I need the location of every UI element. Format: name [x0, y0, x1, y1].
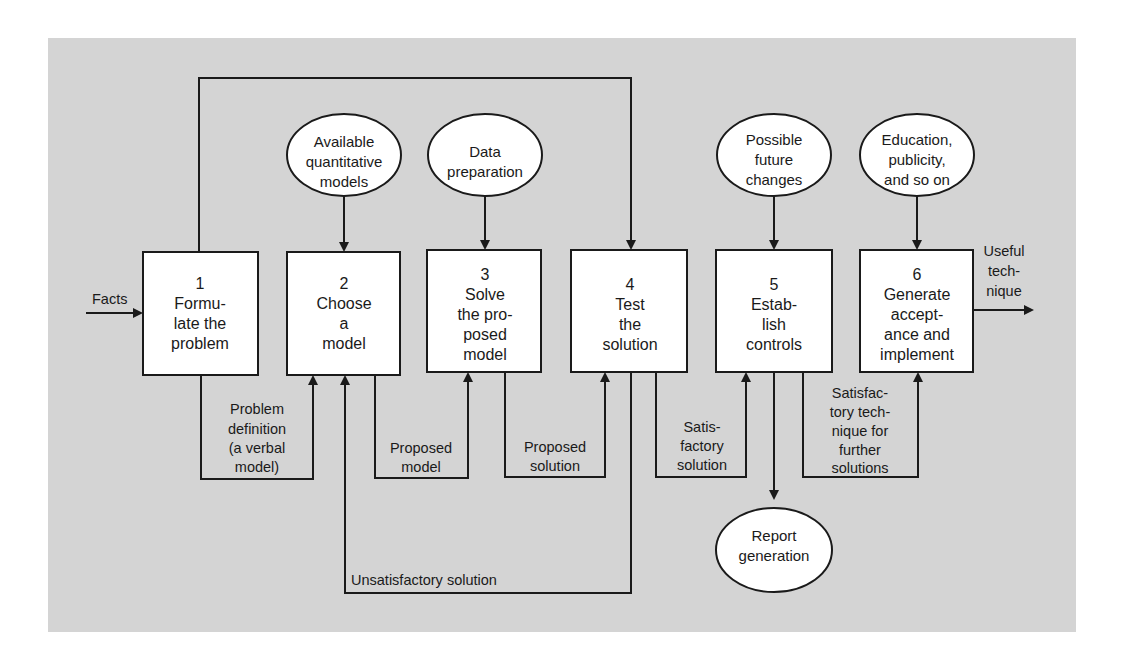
svg-text:quantitative: quantitative — [306, 153, 383, 170]
svg-text:models: models — [320, 173, 368, 190]
svg-text:preparation: preparation — [447, 163, 523, 180]
step-box-4-test-solution: 4 Test the solution — [571, 250, 687, 372]
svg-text:6: 6 — [913, 266, 922, 283]
svg-text:Proposed: Proposed — [390, 440, 452, 456]
svg-text:2: 2 — [340, 275, 349, 292]
svg-text:Satisfac-: Satisfac- — [832, 385, 889, 401]
svg-text:tory tech-: tory tech- — [830, 404, 891, 420]
svg-text:Proposed: Proposed — [524, 439, 586, 455]
svg-text:solution: solution — [677, 457, 727, 473]
svg-text:solution: solution — [530, 458, 580, 474]
svg-text:Unsatisfactory solution: Unsatisfactory solution — [351, 572, 497, 588]
svg-text:Choose: Choose — [316, 295, 371, 312]
svg-text:Estab-: Estab- — [751, 296, 797, 313]
svg-text:5: 5 — [770, 276, 779, 293]
svg-text:Generate: Generate — [884, 286, 951, 303]
svg-text:4: 4 — [626, 276, 635, 293]
svg-text:Formu-: Formu- — [174, 295, 226, 312]
step-box-2-choose-model: 2 Choose a model — [287, 252, 400, 375]
svg-text:late the: late the — [174, 315, 227, 332]
svg-text:Problem: Problem — [230, 401, 284, 417]
svg-text:future: future — [755, 151, 793, 168]
svg-text:lish: lish — [762, 316, 786, 333]
svg-text:model: model — [401, 459, 441, 475]
svg-text:posed: posed — [463, 326, 507, 343]
svg-text:accept-: accept- — [891, 306, 943, 323]
svg-text:Facts: Facts — [92, 291, 127, 307]
svg-text:Data: Data — [469, 143, 501, 160]
svg-text:definition: definition — [228, 421, 286, 437]
svg-text:Education,: Education, — [882, 131, 953, 148]
svg-text:solution: solution — [602, 336, 657, 353]
svg-text:problem: problem — [171, 335, 229, 352]
svg-text:3: 3 — [481, 266, 490, 283]
step-box-1-formulate-problem: 1 Formu- late the problem — [143, 252, 258, 375]
svg-text:Possible: Possible — [746, 131, 803, 148]
svg-text:nique: nique — [986, 283, 1021, 299]
svg-text:model): model) — [235, 459, 279, 475]
svg-text:implement: implement — [880, 346, 954, 363]
svg-text:solutions: solutions — [831, 460, 888, 476]
svg-text:ance and: ance and — [884, 326, 950, 343]
svg-text:controls: controls — [746, 336, 802, 353]
quantitative-analysis-flowchart: Available quantitative models Data prepa… — [0, 0, 1127, 665]
svg-text:the pro-: the pro- — [457, 306, 512, 323]
svg-text:the: the — [619, 316, 641, 333]
svg-text:a: a — [340, 315, 349, 332]
svg-text:factory: factory — [680, 438, 724, 454]
svg-text:nique for: nique for — [832, 423, 889, 439]
svg-text:Test: Test — [615, 296, 645, 313]
svg-text:changes: changes — [746, 171, 803, 188]
svg-text:Useful: Useful — [983, 243, 1024, 259]
svg-text:Satis-: Satis- — [683, 419, 720, 435]
svg-text:Solve: Solve — [465, 286, 505, 303]
step-box-6-generate-acceptance: 6 Generate accept- ance and implement — [860, 250, 973, 372]
svg-text:further: further — [839, 442, 881, 458]
svg-text:generation: generation — [739, 547, 810, 564]
svg-text:Available: Available — [314, 133, 375, 150]
svg-text:model: model — [463, 346, 507, 363]
step-box-5-establish-controls: 5 Estab- lish controls — [716, 250, 832, 372]
svg-text:1: 1 — [196, 275, 205, 292]
svg-text:model: model — [322, 335, 366, 352]
svg-text:publicity,: publicity, — [888, 151, 945, 168]
svg-text:tech-: tech- — [988, 263, 1020, 279]
svg-text:(a verbal: (a verbal — [229, 440, 285, 456]
step-box-3-solve-proposed-model: 3 Solve the pro- posed model — [427, 250, 541, 372]
svg-text:Report: Report — [751, 527, 797, 544]
svg-text:and so on: and so on — [884, 171, 950, 188]
